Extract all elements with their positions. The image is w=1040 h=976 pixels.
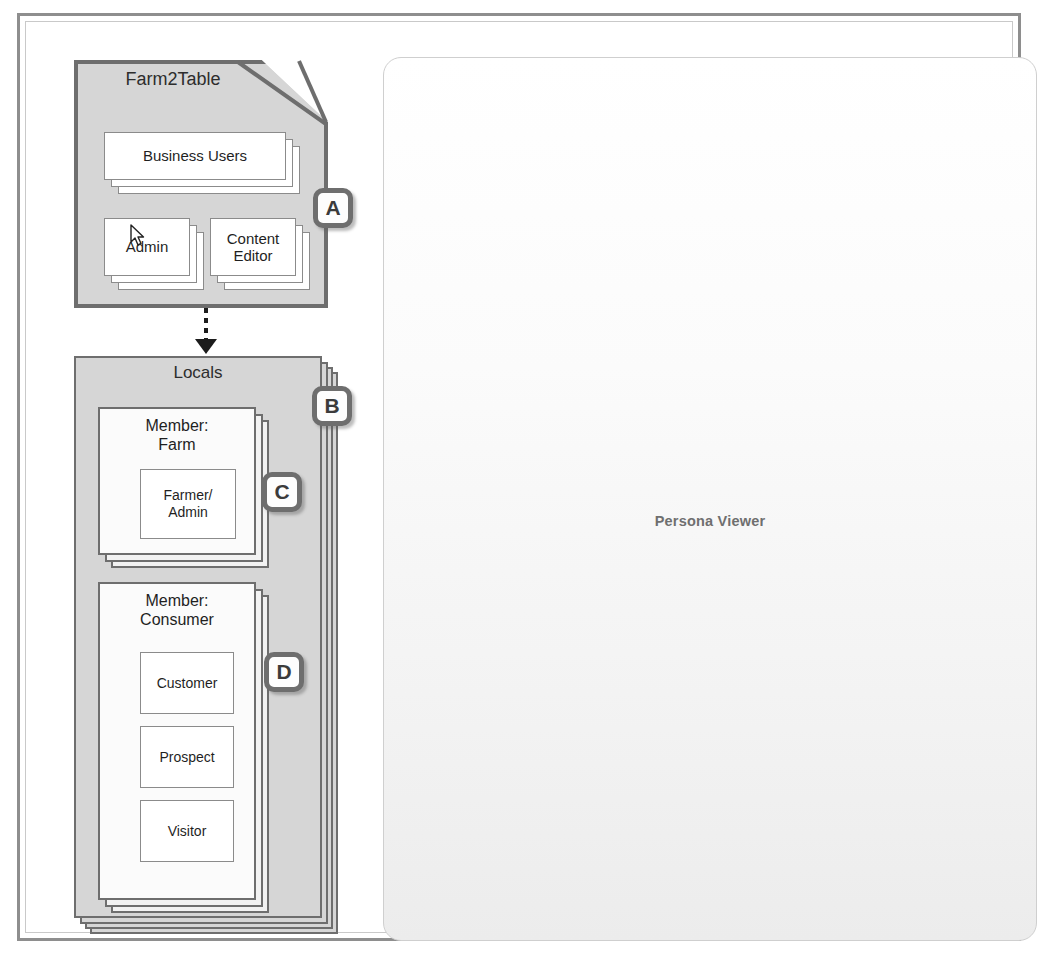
outer-frame-border: Persona Viewer E Farm2Table Business Use… (17, 13, 1021, 941)
group-member-consumer[interactable]: Member: Consumer Customer Prospect Visit… (98, 582, 256, 900)
role-label-line2: Admin (164, 504, 213, 521)
card-label: Admin (104, 218, 190, 276)
locals-title: Locals (74, 363, 322, 383)
marker-badge-d[interactable]: D (264, 652, 304, 692)
group-title-line2: Farm (98, 436, 256, 455)
role-prospect[interactable]: Prospect (140, 726, 234, 788)
group-title-line1: Member: (98, 592, 256, 611)
card-label: Business Users (104, 132, 286, 180)
group-title-line1: Member: (98, 417, 256, 436)
persona-viewer-panel[interactable]: Persona Viewer E (383, 57, 1037, 941)
mouse-pointer-icon (130, 224, 146, 248)
role-farmer-admin[interactable]: Farmer/ Admin (140, 469, 236, 539)
group-title: Member: Consumer (98, 592, 256, 630)
marker-badge-c[interactable]: C (262, 472, 302, 512)
persona-viewer-title: Persona Viewer (384, 513, 1036, 529)
card-business-users[interactable]: Business Users (104, 132, 286, 180)
role-visitor[interactable]: Visitor (140, 800, 234, 862)
inner-frame-border: Persona Viewer E Farm2Table Business Use… (25, 21, 1013, 933)
card-admin[interactable]: Admin (104, 218, 190, 276)
screenshot-canvas: Persona Viewer E Farm2Table Business Use… (0, 0, 1040, 976)
group-member-farm[interactable]: Member: Farm Farmer/ Admin (98, 407, 256, 555)
marker-badge-a[interactable]: A (313, 188, 353, 228)
marker-badge-b[interactable]: B (312, 386, 352, 426)
role-label-line1: Farmer/ (164, 487, 213, 504)
farm2table-title: Farm2Table (74, 69, 272, 90)
role-customer[interactable]: Customer (140, 652, 234, 714)
card-content-editor[interactable]: Content Editor (210, 218, 296, 276)
group-title: Member: Farm (98, 417, 256, 455)
dashed-inheritance-arrow-icon (186, 308, 226, 356)
group-title-line2: Consumer (98, 611, 256, 630)
card-label: Content Editor (210, 218, 296, 276)
